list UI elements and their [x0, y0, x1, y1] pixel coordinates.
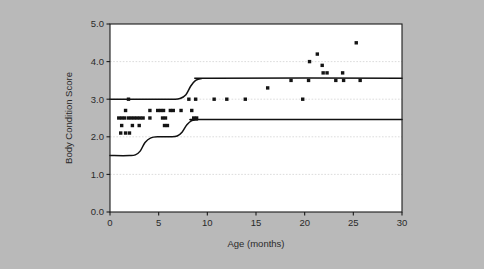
- datapoint: [117, 116, 120, 119]
- datapoint: [244, 98, 247, 101]
- datapoint: [120, 116, 123, 119]
- datapoint: [128, 131, 131, 134]
- datapoint: [325, 71, 328, 74]
- datapoint: [334, 79, 337, 82]
- datapoint: [161, 116, 164, 119]
- datapoint: [192, 116, 195, 119]
- datapoint: [308, 60, 311, 63]
- datapoint: [321, 71, 324, 74]
- datapoint: [163, 124, 166, 127]
- y-tick-label: 4.0: [91, 56, 104, 67]
- y-tick-label: 1.0: [91, 169, 104, 180]
- x-tick-label: 20: [299, 217, 310, 228]
- datapoint: [316, 52, 319, 55]
- x-axis-title: Age (months): [227, 238, 284, 249]
- datapoint: [301, 98, 304, 101]
- datapoint: [131, 124, 134, 127]
- y-tick-label: 3.0: [91, 94, 104, 105]
- datapoint: [119, 131, 122, 134]
- datapoint: [148, 109, 151, 112]
- datapoint: [187, 98, 190, 101]
- datapoint: [133, 116, 136, 119]
- datapoint: [355, 41, 358, 44]
- datapoint: [138, 116, 141, 119]
- datapoint: [289, 79, 292, 82]
- plot-background: [110, 24, 402, 212]
- datapoint: [190, 109, 193, 112]
- datapoint: [320, 64, 323, 67]
- datapoint: [127, 98, 130, 101]
- x-tick-label: 0: [107, 217, 112, 228]
- datapoint: [212, 98, 215, 101]
- datapoint: [194, 98, 197, 101]
- x-tick-label: 30: [397, 217, 408, 228]
- x-tick-label: 10: [202, 217, 213, 228]
- x-tick-label: 15: [251, 217, 262, 228]
- y-axis-title: Body Condition Score: [63, 72, 74, 164]
- datapoint: [195, 116, 198, 119]
- datapoint: [141, 116, 144, 119]
- datapoint: [127, 116, 130, 119]
- figure-container: 051015202530 0.01.02.03.04.05.0 Age (mon…: [0, 0, 484, 269]
- y-tick-label: 0.0: [91, 206, 104, 217]
- chart-svg: 051015202530 0.01.02.03.04.05.0 Age (mon…: [0, 0, 484, 269]
- datapoint: [342, 79, 345, 82]
- datapoint: [138, 124, 141, 127]
- datapoint: [123, 116, 126, 119]
- datapoint: [162, 109, 165, 112]
- datapoint: [130, 116, 133, 119]
- datapoint: [159, 109, 162, 112]
- datapoint: [179, 109, 182, 112]
- x-tick-label: 5: [156, 217, 161, 228]
- y-tick-label: 2.0: [91, 131, 104, 142]
- datapoint: [120, 124, 123, 127]
- datapoint: [266, 86, 269, 89]
- datapoint: [156, 109, 159, 112]
- y-tick-label: 5.0: [91, 18, 104, 29]
- datapoint: [225, 98, 228, 101]
- datapoint: [124, 109, 127, 112]
- datapoint: [172, 109, 175, 112]
- datapoint: [341, 71, 344, 74]
- x-tick-label: 25: [348, 217, 359, 228]
- datapoint: [169, 109, 172, 112]
- datapoint: [358, 79, 361, 82]
- datapoint: [136, 116, 139, 119]
- datapoint: [124, 131, 127, 134]
- datapoint: [148, 116, 151, 119]
- datapoint: [307, 79, 310, 82]
- datapoint: [166, 124, 169, 127]
- datapoint: [164, 116, 167, 119]
